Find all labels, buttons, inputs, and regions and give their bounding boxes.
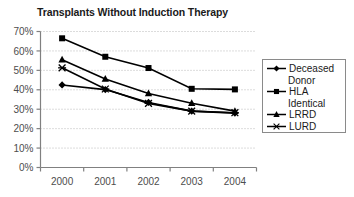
legend-item-label: LRRD [289,109,316,121]
x-tick-label: 2004 [224,176,247,187]
square-marker-icon [266,86,287,97]
data-point-marker [146,65,152,71]
legend-item-label: Donor [288,75,315,87]
data-series [59,35,238,92]
data-point-marker [232,86,238,92]
x-axis [41,168,257,172]
legend-item-label-continued: Donor [263,75,345,87]
y-tick-label: 20% [13,123,33,134]
legend-item[interactable]: LRRD [263,109,345,121]
legend-item[interactable]: HLA [263,86,345,98]
x-tick-label: 2001 [94,176,117,187]
legend-item-label: Deceased [289,63,334,75]
y-tick-label: 50% [13,65,33,76]
data-point-marker [59,81,66,88]
data-point-marker [273,123,280,129]
legend-item-label: HLA [289,86,308,98]
legend-item-label: LURD [289,121,316,133]
legend-item-label: Identical [288,98,325,110]
data-point-marker [102,54,108,60]
y-tick-label: 10% [13,143,33,154]
legend: DeceasedDonorHLAIdenticalLRRDLURD [262,59,346,133]
triangle-marker-icon [266,109,287,120]
legend-item[interactable]: LURD [263,121,345,133]
y-tick-label: 60% [13,46,33,57]
data-point-marker [273,66,279,72]
y-tick-label: 40% [13,84,33,95]
data-series-layer [58,35,239,116]
data-point-marker [274,89,279,94]
cross-marker-icon [266,121,287,132]
y-tick-label: 30% [13,104,33,115]
legend-item-label-continued: Identical [263,98,345,110]
data-point-marker [189,86,195,92]
x-tick-label: 2003 [181,176,204,187]
x-tick-labels: 20002001200220032004 [51,176,246,187]
y-tick-label: 70% [13,26,33,37]
y-tick-label: 0% [19,162,34,173]
data-point-marker [58,56,65,63]
x-tick-label: 2002 [137,176,160,187]
y-tick-labels: 0%10%20%30%40%50%60%70% [13,26,33,173]
x-tick-label: 2000 [51,176,74,187]
data-point-marker [59,35,65,41]
diamond-marker-icon [266,63,287,74]
legend-item[interactable]: Deceased [263,63,345,75]
chart-screenshot: Transplants Without Induction Therapy 0%… [0,0,354,197]
y-axis [37,32,41,168]
